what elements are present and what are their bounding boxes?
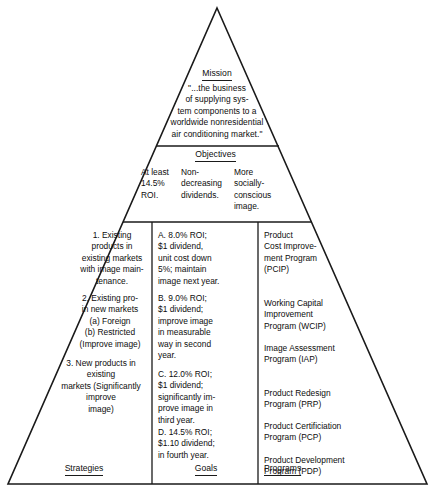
objectives-columns: At least 14.5% ROI. Non- decreasing divi… [141,167,301,213]
programs-label: Programs [264,463,301,476]
goal-item: B. 9.0% ROI; $1 dividend; improve image … [158,293,254,361]
goals-label-wrap: Goals [158,463,254,476]
pyramid-diagram: Mission "...the business of supplying sy… [0,0,431,497]
objective-item: At least 14.5% ROI. [141,167,181,213]
mission-body: "...the business of supplying sys- tem c… [118,83,316,140]
programs-label-wrap: Programs [264,463,368,476]
objective-item: More socially- conscious image. [234,167,301,213]
program-item: Product Certificiation Program (PCP) [264,421,384,444]
goal-item: D. 14.5% ROI; $1.10 dividend; in fourth … [158,427,254,461]
objectives-title-wrap: Objectives [0,149,431,162]
objective-item: Non- decreasing dividends. [181,167,234,213]
objectives-title: Objectives [195,149,236,162]
program-item: Product Redesign Program (PRP) [264,388,384,411]
strategy-item: 2. Existing pro- in new markets (a) Fore… [70,293,150,350]
mission-title: Mission [202,68,231,81]
strategies-label-wrap: Strategies [20,463,148,476]
program-item: Working Capital Improvement Program (WCI… [264,298,384,332]
program-item: Image Assessment Program (IAP) [264,343,384,366]
goals-label: Goals [195,463,217,476]
program-item: Product Cost Improve- ment Program (PCIP… [264,230,384,276]
mission-section: Mission "...the business of supplying sy… [118,68,316,140]
goal-item: C. 12.0% ROI; $1 dividend; significantly… [158,369,254,426]
strategy-item: 3. New products in existing markets (Sig… [52,358,150,415]
goal-item: A. 8.0% ROI; $1 dividend, unit cost down… [158,230,254,287]
strategy-item: 1. Existing products in existing markets… [74,230,150,287]
strategies-label: Strategies [65,463,104,476]
